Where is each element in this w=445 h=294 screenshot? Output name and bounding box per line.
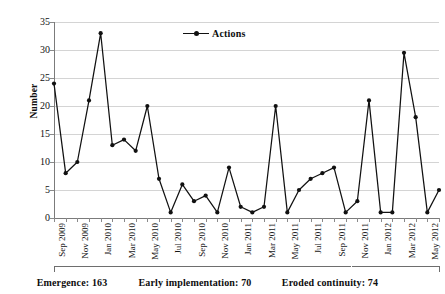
x-tick-label: Mar 2011 [268,223,277,269]
chart-figure: Number 05101520253035 Sep 2009Nov 2009Ja… [0,0,445,294]
x-tick-label: Sep 2010 [198,223,207,269]
x-tick-label: Jan 2011 [244,223,253,269]
phase-caption-3: Eroded continuity: 74 [282,277,378,288]
x-tick-label: Nov 2011 [361,223,370,269]
x-tick-label: Sep 2009 [58,223,67,269]
x-tick-label: Jul 2011 [314,223,323,269]
x-tick-label: May 2011 [291,223,300,269]
legend-label-actions: Actions [212,28,246,39]
phase-bracket-2 [188,266,351,272]
phase-caption-1: Emergence: 163 [37,277,108,288]
x-tick-label: May 2010 [151,223,160,269]
x-tick-label: Jul 2010 [174,223,183,269]
x-tick-label: Nov 2010 [221,223,230,269]
legend-line-marker-icon [183,29,209,38]
x-tick-label: Mar 2010 [128,223,137,269]
phase-caption-2: Early implementation: 70 [138,277,251,288]
x-tick-label: Jan 2012 [384,223,393,269]
plot-area: Number 05101520253035 Sep 2009Nov 2009Ja… [0,0,445,294]
legend-marker-dot-icon [194,31,199,36]
x-tick-label: Mar 2012 [408,223,417,269]
x-tick-label: Jan 2010 [104,223,113,269]
x-tick-label: May 2012 [431,223,440,269]
phase-bracket-1 [54,266,189,272]
chart-legend: Actions [183,28,246,39]
x-tick-label: Nov 2009 [81,223,90,269]
x-axis-labels: Sep 2009Nov 2009Jan 2010Mar 2010May 2010… [0,0,445,294]
phase-bracket-3 [352,266,441,272]
x-tick-label: Sep 2011 [338,223,347,269]
